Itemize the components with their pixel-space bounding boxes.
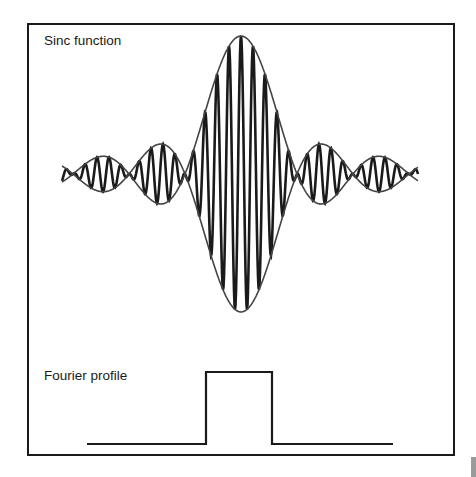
diagram-canvas [0,0,476,477]
sinc-envelope-lower [62,144,418,312]
fourier-rect-profile [87,372,393,444]
corner-artifact [471,457,476,477]
sinc-carrier-wave [62,36,418,309]
